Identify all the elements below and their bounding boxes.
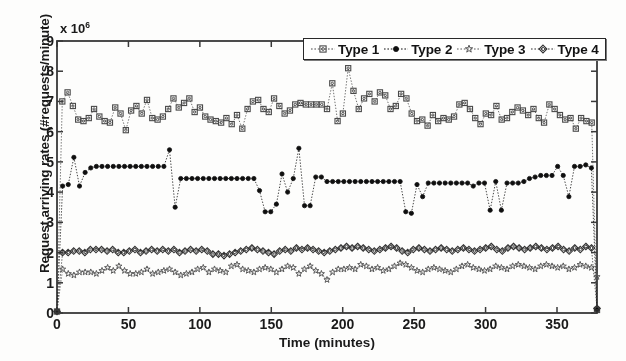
data-point-marker: [370, 179, 374, 183]
data-point-marker: [203, 114, 208, 119]
data-point-marker: [100, 164, 104, 168]
data-point-marker: [404, 210, 408, 214]
data-point-marker: [134, 164, 138, 168]
data-point-marker: [347, 179, 351, 183]
data-point-marker: [356, 106, 361, 111]
data-point-marker: [208, 117, 213, 122]
data-point-marker: [234, 112, 239, 117]
data-point-marker: [381, 179, 385, 183]
data-point-marker: [409, 211, 413, 215]
series-line: [57, 148, 597, 311]
data-point-marker: [505, 181, 509, 185]
data-point-marker: [256, 97, 261, 102]
data-point-marker: [128, 164, 132, 168]
legend-label: Type 3: [484, 42, 525, 57]
data-point-marker: [297, 146, 301, 150]
data-point-marker: [241, 176, 245, 180]
data-point-marker: [235, 176, 239, 180]
data-point-marker: [319, 175, 323, 179]
data-point-marker: [72, 155, 76, 159]
data-point-marker: [89, 166, 93, 170]
data-point-marker: [511, 181, 515, 185]
data-point-marker: [520, 108, 525, 113]
data-point-marker: [488, 208, 492, 212]
data-point-marker: [167, 148, 171, 152]
data-point-marker: [388, 106, 393, 111]
data-point-marker: [567, 195, 571, 199]
data-point-marker: [269, 210, 273, 214]
data-point-marker: [522, 179, 526, 183]
data-point-marker: [330, 269, 336, 275]
data-point-marker: [451, 114, 456, 119]
data-point-marker: [213, 118, 218, 123]
chart-figure: x 106 Request arriving rates (#requests/…: [0, 0, 626, 361]
data-point-marker: [477, 181, 481, 185]
data-point-marker: [77, 184, 81, 188]
data-point-marker: [561, 173, 565, 177]
data-point-marker: [449, 181, 453, 185]
data-point-marker: [346, 264, 352, 270]
data-point-marker: [364, 179, 368, 183]
data-point-marker: [277, 103, 282, 108]
data-point-marker: [387, 179, 391, 183]
data-point-marker: [151, 164, 155, 168]
legend-marker-open-diamond-icon: [530, 42, 556, 56]
data-point-marker: [414, 118, 419, 123]
data-point-marker: [65, 270, 71, 276]
data-point-marker: [483, 111, 488, 116]
data-point-marker: [122, 164, 126, 168]
legend-entry-2: Type 2: [381, 42, 454, 57]
legend-marker-open-star-icon: [456, 42, 482, 56]
data-point-marker: [443, 181, 447, 185]
data-point-marker: [66, 182, 70, 186]
data-point-marker: [572, 164, 576, 168]
data-point-marker: [262, 264, 268, 270]
data-point-marker: [201, 176, 205, 180]
data-point-marker: [82, 269, 88, 275]
data-point-marker: [533, 175, 537, 179]
data-point-marker: [179, 176, 183, 180]
data-point-marker: [454, 181, 458, 185]
legend-label: Type 1: [338, 42, 379, 57]
series-line: [57, 247, 597, 312]
data-point-marker: [398, 179, 402, 183]
data-point-marker: [331, 179, 335, 183]
data-point-marker: [393, 103, 398, 108]
data-point-marker: [212, 176, 216, 180]
data-point-marker: [155, 117, 160, 122]
data-point-marker: [280, 172, 284, 176]
data-point-marker: [318, 270, 324, 276]
data-point-marker: [145, 164, 149, 168]
data-point-marker: [106, 164, 110, 168]
data-point-marker: [446, 117, 451, 122]
data-point-marker: [263, 210, 267, 214]
data-point-marker: [160, 114, 165, 119]
data-point-marker: [144, 266, 150, 272]
data-point-marker: [61, 184, 65, 188]
data-point-marker: [308, 204, 312, 208]
data-point-marker: [139, 164, 143, 168]
data-point-marker: [171, 96, 176, 101]
data-point-marker: [460, 181, 464, 185]
data-point-marker: [482, 181, 486, 185]
data-point-marker: [123, 128, 128, 133]
data-point-marker: [426, 181, 430, 185]
data-point-marker: [466, 45, 473, 52]
data-point-marker: [162, 164, 166, 168]
data-point-marker: [544, 173, 548, 177]
data-point-marker: [127, 270, 133, 276]
data-point-marker: [493, 263, 499, 269]
legend-label: Type 4: [558, 42, 599, 57]
data-point-marker: [383, 93, 388, 98]
legend-marker-open-square-icon: [310, 42, 336, 56]
data-point-marker: [392, 179, 396, 183]
data-point-marker: [173, 205, 177, 209]
data-point-marker: [246, 176, 250, 180]
data-point-marker: [291, 176, 295, 180]
data-point-marker: [76, 269, 82, 275]
data-point-marker: [335, 266, 341, 272]
data-point-marker: [421, 195, 425, 199]
data-point-marker: [192, 109, 197, 114]
data-point-marker: [302, 204, 306, 208]
legend-marker-filled-circle-icon: [383, 42, 409, 56]
